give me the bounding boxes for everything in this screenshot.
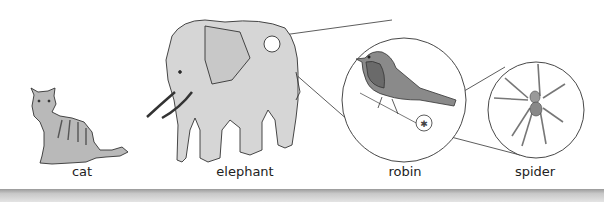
spider-zoom-circle: [488, 62, 584, 158]
diagram-illustration: ✱: [0, 0, 604, 190]
label-elephant: elephant: [216, 164, 273, 179]
label-cat: cat: [72, 164, 92, 179]
bottom-divider-bar: [0, 189, 604, 202]
label-spider: spider: [515, 164, 555, 179]
svg-text:✱: ✱: [420, 119, 428, 129]
elephant-illustration: [147, 20, 300, 162]
label-robin: robin: [388, 164, 421, 179]
robin-zoom-circle: ✱: [342, 38, 466, 162]
cat-illustration: [31, 88, 128, 164]
